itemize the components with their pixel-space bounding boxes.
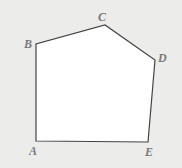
pentagon-diagram: A B C D E	[0, 0, 182, 168]
vertex-label-b: B	[23, 37, 32, 51]
vertex-label-c: C	[98, 10, 107, 24]
diagram-canvas: A B C D E	[0, 0, 182, 168]
vertex-label-e: E	[144, 145, 153, 159]
vertex-label-d: D	[157, 51, 167, 65]
pentagon-shape	[36, 25, 155, 142]
vertex-label-a: A	[28, 144, 37, 158]
